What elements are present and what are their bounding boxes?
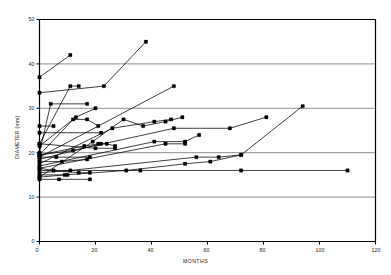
data-point	[88, 178, 91, 181]
data-point	[172, 84, 175, 87]
data-point	[38, 160, 41, 163]
data-point	[169, 118, 172, 121]
data-point	[239, 153, 242, 156]
x-axis-title: MONTHS	[0, 258, 391, 264]
data-point	[38, 124, 41, 127]
data-point	[144, 40, 147, 43]
data-point	[99, 131, 102, 134]
data-point	[38, 153, 41, 156]
series-line	[40, 55, 71, 77]
data-point	[239, 169, 242, 172]
y-tick-label-20: 20	[29, 150, 35, 156]
data-point	[71, 118, 74, 121]
data-point	[38, 173, 41, 176]
series-line	[40, 86, 79, 144]
data-point	[153, 120, 156, 123]
data-point	[38, 169, 41, 172]
data-point	[181, 115, 184, 118]
chart-canvas	[0, 0, 391, 275]
series-s2	[38, 40, 148, 94]
series-line	[40, 42, 146, 93]
data-point	[38, 76, 41, 79]
scatter-line-chart: 01020304050020406080100120DIAMETER (mm)M…	[0, 0, 391, 275]
data-point	[69, 84, 72, 87]
data-point	[49, 102, 52, 105]
data-point	[113, 147, 116, 150]
series-s3	[38, 84, 81, 145]
data-point	[209, 160, 212, 163]
data-point	[55, 155, 58, 158]
y-tick-label-0: 0	[32, 238, 35, 244]
data-point	[38, 91, 41, 94]
data-point	[38, 178, 41, 181]
data-point	[172, 127, 175, 130]
data-point	[183, 142, 186, 145]
data-point	[228, 127, 231, 130]
data-point	[85, 158, 88, 161]
data-point	[164, 142, 167, 145]
data-point	[85, 118, 88, 121]
data-point	[301, 104, 304, 107]
data-point	[111, 127, 114, 130]
data-point	[183, 162, 186, 165]
series-s15	[38, 155, 92, 158]
series-s24	[38, 131, 103, 134]
data-point	[60, 160, 63, 163]
y-tick-label-10: 10	[29, 194, 35, 200]
data-point	[52, 124, 55, 127]
data-point	[57, 178, 60, 181]
data-point	[195, 155, 198, 158]
data-point	[69, 53, 72, 56]
data-point	[66, 173, 69, 176]
series-s20	[38, 178, 92, 181]
data-point	[153, 140, 156, 143]
series-s7	[38, 124, 55, 127]
data-point	[197, 133, 200, 136]
data-point	[346, 169, 349, 172]
series-line	[40, 144, 186, 168]
data-point	[122, 118, 125, 121]
data-point	[38, 142, 41, 145]
data-point	[94, 107, 97, 110]
y-tick-label-30: 30	[29, 105, 35, 111]
data-point	[139, 169, 142, 172]
data-point	[94, 147, 97, 150]
y-tick-label-50: 50	[29, 16, 35, 22]
series-s1	[38, 53, 72, 79]
series-line	[40, 117, 183, 177]
series-s8	[38, 115, 184, 178]
y-tick-label-40: 40	[29, 61, 35, 67]
data-point	[77, 84, 80, 87]
y-axis-title: DIAMETER (mm)	[14, 115, 20, 159]
x-tick-label-120: 120	[0, 247, 391, 253]
data-point	[71, 149, 74, 152]
data-point	[102, 84, 105, 87]
data-point	[91, 140, 94, 143]
data-point	[85, 102, 88, 105]
data-point	[38, 131, 41, 134]
data-point	[217, 155, 220, 158]
data-point	[265, 115, 268, 118]
series-s5	[38, 107, 97, 148]
data-point	[141, 124, 144, 127]
